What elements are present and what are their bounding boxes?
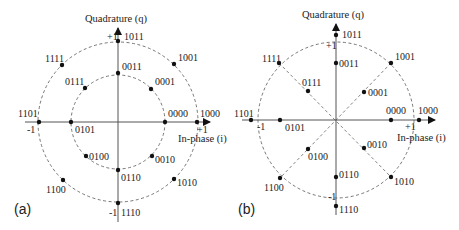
point-0101 (69, 120, 73, 124)
point-1110 (116, 201, 120, 205)
panel-b: Quadrature (q) In-phase (i) +1 -1 +1 -1 … (234, 9, 446, 217)
point-0010 (362, 146, 366, 150)
point-label: 0110 (121, 172, 141, 183)
point-0111 (306, 89, 310, 93)
panel-a-label: (a) (14, 201, 31, 217)
point-label: 1101 (18, 108, 38, 119)
point-label: 0101 (285, 122, 305, 133)
point-label: 1011 (342, 29, 362, 40)
point-0011 (334, 61, 338, 65)
point-1100 (61, 178, 65, 182)
point-label: 0011 (339, 58, 359, 69)
tick-minus-y: -1 (328, 191, 336, 202)
point-1001 (172, 62, 176, 66)
point-label: 1110 (121, 207, 140, 218)
point-label: 1001 (178, 52, 198, 63)
panel-b-label: (b) (238, 201, 255, 217)
point-1100 (278, 176, 282, 180)
point-label: 1111 (45, 53, 64, 64)
tick-plus-x: +1 (197, 124, 208, 135)
point-0000 (163, 120, 167, 124)
point-label: 0100 (89, 151, 109, 162)
point-label: 0110 (339, 169, 359, 180)
point-1011 (334, 33, 338, 37)
point-label: 1111 (262, 53, 281, 64)
tick-plus-y: +1 (326, 40, 337, 51)
panel-a: Quadrature (q) In-phase (i) +1 -1 +1 -1 … (14, 13, 227, 222)
point-label: 0010 (155, 154, 175, 165)
point-label: 0000 (168, 108, 188, 119)
point-label: 1100 (46, 184, 66, 195)
point-1001 (389, 61, 393, 65)
in-phase-axis-label: In-phase (i) (397, 132, 446, 144)
point-1000 (195, 120, 199, 124)
point-0001 (362, 90, 366, 94)
tick-plus-x: +1 (405, 121, 416, 132)
point-0110 (334, 175, 338, 179)
point-1110 (334, 204, 338, 208)
point-0101 (278, 118, 282, 122)
point-label: 1100 (264, 182, 284, 193)
point-0000 (389, 118, 393, 122)
point-label: 1010 (177, 177, 197, 188)
point-0100 (84, 154, 88, 158)
point-label: 0101 (75, 124, 95, 135)
point-1010 (389, 175, 393, 179)
quadrature-axis-label: Quadrature (q) (85, 13, 148, 25)
point-0001 (149, 87, 153, 91)
point-label: 1000 (418, 105, 438, 116)
point-label: 1011 (124, 31, 144, 42)
point-1000 (417, 118, 421, 122)
point-0010 (150, 154, 154, 158)
point-label: 0000 (386, 105, 406, 116)
point-label: 0010 (367, 139, 387, 150)
tick-minus-x: -1 (257, 121, 265, 132)
constellation-figure: Quadrature (q) In-phase (i) +1 -1 +1 -1 … (0, 0, 459, 230)
point-label: 0001 (368, 87, 388, 98)
tick-minus-x: -1 (27, 124, 35, 135)
point-1011 (116, 39, 120, 43)
point-label: 1101 (234, 108, 254, 119)
point-1010 (172, 177, 176, 181)
point-label: 0011 (122, 61, 142, 72)
point-label: 1000 (200, 108, 220, 119)
point-label: 0111 (65, 76, 84, 87)
point-label: 0100 (308, 151, 328, 162)
point-1101 (37, 120, 41, 124)
point-0110 (116, 168, 120, 172)
tick-minus-y: -1 (109, 207, 117, 218)
point-0011 (116, 71, 120, 75)
point-label: 1001 (395, 51, 415, 62)
quadrature-axis-label: Quadrature (q) (302, 9, 365, 21)
point-label: 0111 (302, 77, 321, 88)
point-label: 1010 (394, 176, 414, 187)
point-label: 1110 (339, 204, 358, 215)
point-label: 0001 (155, 76, 175, 87)
